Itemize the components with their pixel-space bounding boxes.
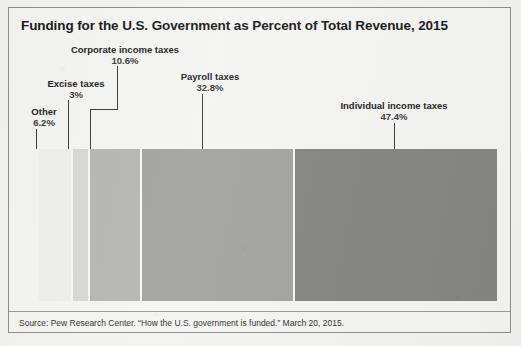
callout-value: 32.8%: [155, 82, 265, 93]
callout-individual-income-taxes: Individual income taxes 47.4%: [319, 100, 469, 122]
callout-label: Excise taxes: [31, 78, 121, 89]
chart-figure: Funding for the U.S. Government as Perce…: [8, 7, 511, 333]
callout-other: Other 6.2%: [15, 106, 73, 128]
leader-line-corporate-upper: [117, 66, 118, 110]
callout-label: Payroll taxes: [155, 71, 265, 82]
stacked-bar-chart: [39, 149, 497, 301]
callout-label: Individual income taxes: [319, 100, 469, 111]
callout-label: Other: [15, 106, 73, 117]
callout-value: 10.6%: [55, 55, 195, 66]
page-title: Funding for the U.S. Government as Perce…: [21, 18, 448, 33]
callout-corporate-income-taxes: Corporate income taxes 10.6%: [55, 44, 195, 66]
leader-line-individual: [394, 123, 395, 149]
bar-segment-excise-taxes: [73, 149, 90, 301]
bar-segment-other: [39, 149, 73, 301]
source-note: Source: Pew Research Center. “How the U.…: [19, 318, 344, 328]
leader-line-corporate-lower: [90, 109, 91, 149]
footer-divider: [9, 311, 510, 312]
callout-payroll-taxes: Payroll taxes 32.8%: [155, 71, 265, 93]
leader-line-payroll: [202, 94, 203, 149]
leader-line-corporate-elbow: [90, 109, 118, 110]
callout-value: 47.4%: [319, 111, 469, 122]
callout-excise-taxes: Excise taxes 3%: [31, 78, 121, 100]
scanned-page: Funding for the U.S. Government as Perce…: [0, 0, 521, 346]
bar-segment-corporate-income-taxes: [90, 149, 142, 301]
bar-segment-individual-income-taxes: [295, 149, 497, 301]
leader-line-other: [36, 129, 37, 149]
bar-segment-payroll-taxes: [142, 149, 295, 301]
callout-value: 3%: [31, 89, 121, 100]
leader-line-excise: [68, 100, 69, 149]
callout-value: 6.2%: [15, 117, 73, 128]
callout-label: Corporate income taxes: [55, 44, 195, 55]
